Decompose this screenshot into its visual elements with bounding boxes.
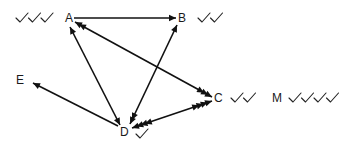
checkmark-icon [314, 93, 326, 102]
node-label: B [178, 11, 186, 25]
arrowhead-icon [169, 15, 176, 21]
edge-line [33, 83, 118, 126]
edge-a-c [75, 22, 212, 97]
checkmarks [136, 129, 148, 138]
checkmark-icon [136, 129, 148, 138]
edge-line [75, 22, 212, 97]
node-label: M [272, 91, 282, 105]
checkmark-icon [29, 13, 41, 22]
checkmark-icon [244, 93, 256, 102]
node-m: M [272, 91, 339, 105]
edges-group [33, 15, 212, 129]
checkmark-icon [41, 13, 53, 22]
node-a: A [16, 11, 73, 25]
node-c: C [214, 91, 256, 105]
node-b: B [178, 11, 223, 25]
checkmark-icon [327, 93, 339, 102]
node-label: A [65, 11, 73, 25]
edge-d-e [33, 83, 118, 126]
checkmark-icon [302, 93, 314, 102]
diagram-canvas: ABCMDE [0, 0, 357, 148]
checkmark-icon [231, 93, 243, 102]
checkmarks [16, 13, 53, 22]
checkmark-icon [198, 13, 210, 22]
checkmarks [198, 13, 223, 22]
nodes-group: ABCMDE [16, 11, 339, 139]
node-label: C [214, 91, 223, 105]
node-e: E [16, 73, 24, 87]
checkmark-icon [16, 13, 28, 22]
checkmark-icon [289, 93, 301, 102]
checkmark-icon [211, 13, 223, 22]
edge-a-b [74, 15, 176, 21]
checkmarks [289, 93, 339, 102]
node-label: E [16, 73, 24, 87]
edge-d-c [132, 100, 212, 129]
checkmarks [231, 93, 256, 102]
node-label: D [120, 125, 129, 139]
